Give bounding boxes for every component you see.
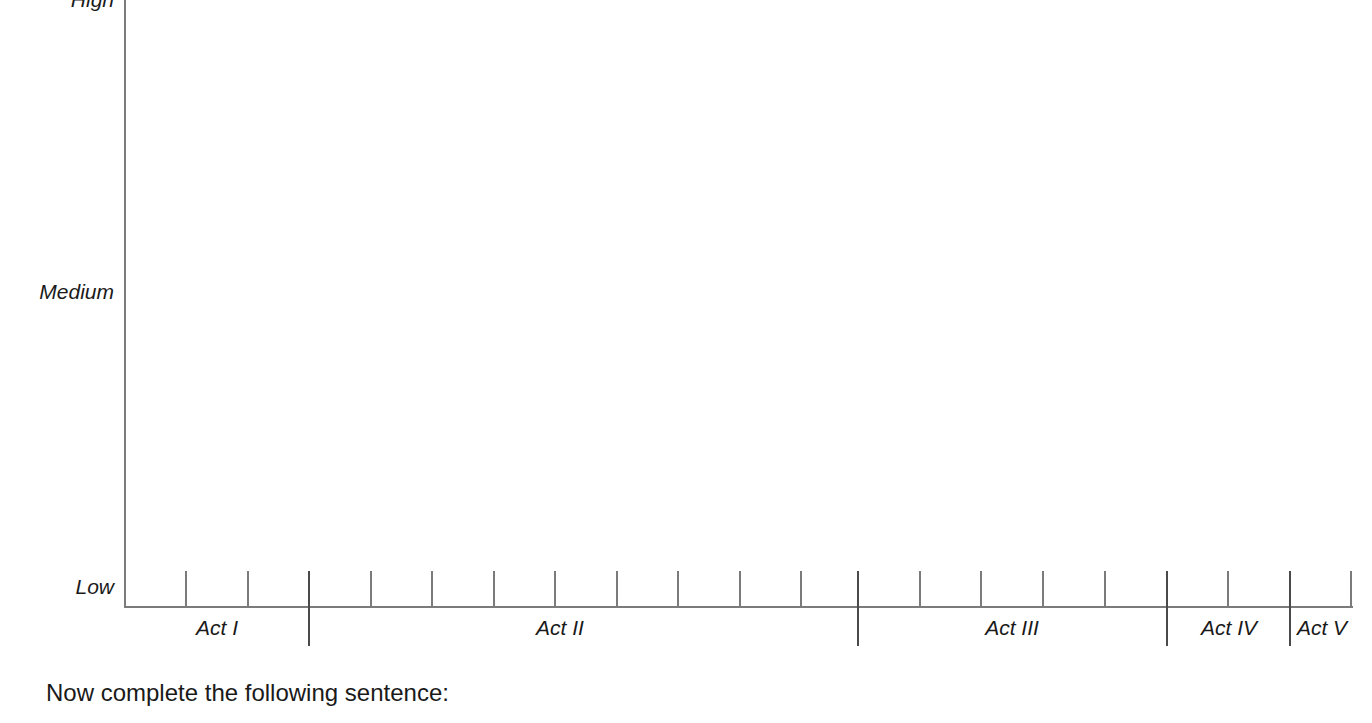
- act-label-5: Act V: [1297, 616, 1347, 640]
- x-axis-minor-tick: [493, 571, 495, 607]
- x-axis-minor-tick: [1227, 571, 1229, 607]
- act-label-4: Act IV: [1201, 616, 1257, 640]
- prompt-instruction-text: Now complete the following sentence:: [46, 678, 449, 708]
- act-label-2: Act II: [536, 616, 584, 640]
- tension-graph-figure: High Medium Low Act IAct IIAct IIIAct IV…: [0, 0, 1372, 660]
- y-axis-label-low: Low: [75, 575, 114, 599]
- x-axis-minor-tick: [554, 571, 556, 607]
- x-axis-minor-tick: [1042, 571, 1044, 607]
- act-divider-tick: [1289, 571, 1291, 646]
- y-axis-line: [124, 0, 126, 608]
- x-axis-minor-tick: [370, 571, 372, 607]
- x-axis-minor-tick: [247, 571, 249, 607]
- x-axis-minor-tick: [1350, 571, 1352, 607]
- act-divider-tick: [1166, 571, 1168, 646]
- act-label-3: Act III: [985, 616, 1039, 640]
- act-divider-tick: [308, 571, 310, 646]
- act-divider-tick: [857, 571, 859, 646]
- y-axis-label-medium: Medium: [39, 280, 114, 304]
- x-axis-minor-tick: [919, 571, 921, 607]
- x-axis-minor-tick: [677, 571, 679, 607]
- x-axis-minor-tick: [1104, 571, 1106, 607]
- y-axis-label-high: High: [71, 0, 114, 12]
- act-label-1: Act I: [196, 616, 238, 640]
- x-axis-minor-tick: [431, 571, 433, 607]
- x-axis-minor-tick: [980, 571, 982, 607]
- x-axis-minor-tick: [185, 571, 187, 607]
- x-axis-minor-tick: [739, 571, 741, 607]
- x-axis-minor-tick: [800, 571, 802, 607]
- x-axis-minor-tick: [616, 571, 618, 607]
